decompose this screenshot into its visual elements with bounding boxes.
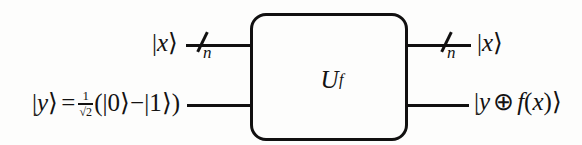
basis-state-one: 1 (149, 90, 162, 115)
argument-paren-close: ) (544, 88, 552, 115)
output-label-bottom: |y⊕f(x)⟩ (474, 89, 562, 114)
output-variable-x: x (482, 29, 493, 56)
register-width-marker-input: n (192, 26, 218, 66)
ket-angle-close: ⟩ (552, 88, 562, 115)
register-width-label-input: n (203, 44, 212, 61)
output-variable-y: y (479, 88, 490, 115)
ket-angle-close: ⟩ (48, 90, 58, 115)
wire-bottom-output (406, 104, 469, 107)
input-label-bottom: |y⟩= 1 √2 (|0⟩−|1⟩) (32, 88, 180, 117)
basis-state-zero: 0 (108, 90, 121, 115)
ket-angle-close: ⟩ (493, 29, 503, 56)
input-label-top: |x⟩ (152, 30, 178, 55)
fraction-numerator: 1 (81, 89, 90, 103)
gate-subscript: f (339, 71, 343, 89)
register-width-marker-output: n (436, 26, 462, 66)
superposition-close: ⟩) (162, 90, 180, 115)
function-argument: x (532, 88, 543, 115)
quantum-circuit-diagram: n n Uf |x⟩ |y⟩= 1 √2 (|0⟩−|1⟩) |x⟩ |y⊕f(… (0, 0, 582, 145)
fraction-denominator: √2 (78, 105, 93, 118)
input-variable-y: y (37, 90, 48, 115)
wire-bottom-input (187, 104, 252, 107)
input-variable-x: x (157, 29, 168, 56)
one-over-root-two-fraction: 1 √2 (78, 89, 93, 118)
superposition-open: (| (94, 90, 107, 115)
ket-angle-close: ⟩ (168, 29, 178, 56)
oracle-gate-label: Uf (253, 16, 411, 144)
gate-symbol: U (320, 66, 338, 94)
equals-sign: = (61, 90, 75, 115)
output-label-top: |x⟩ (477, 30, 503, 55)
xor-operator-icon: ⊕ (493, 88, 514, 115)
minus-separator: ⟩−| (120, 90, 149, 115)
register-width-label-output: n (447, 44, 456, 61)
oracle-gate-box: Uf (250, 13, 408, 141)
